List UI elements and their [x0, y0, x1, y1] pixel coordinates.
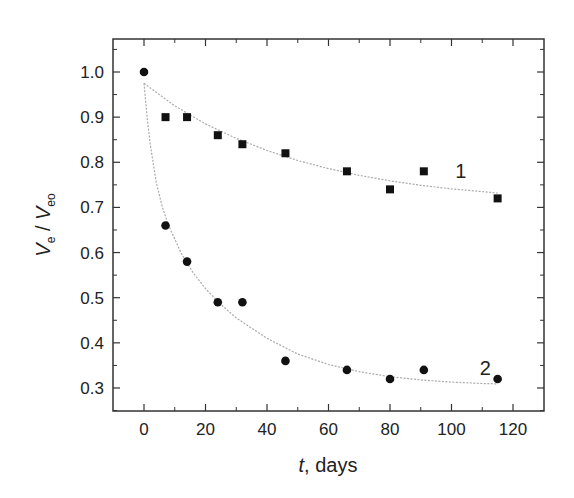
x-tick-label: 60 — [319, 420, 338, 439]
fit-curves — [144, 83, 498, 384]
square-marker — [343, 167, 351, 175]
svg-text:Ve / Veo: Ve / Veo — [32, 193, 58, 257]
circle-marker — [493, 375, 502, 384]
y-tick-label: 0.8 — [80, 153, 104, 172]
y-tick-label: 0.6 — [80, 244, 104, 263]
circle-marker — [214, 298, 223, 307]
square-marker — [281, 149, 289, 157]
data-markers — [140, 68, 502, 384]
y-tick-label: 0.5 — [80, 289, 104, 308]
x-tick-label: 80 — [381, 420, 400, 439]
circle-marker — [161, 221, 170, 230]
series-label-1: 1 — [455, 160, 466, 182]
y-tick-label: 0.4 — [80, 334, 104, 353]
y-tick-label: 1.0 — [80, 63, 104, 82]
square-marker — [214, 131, 222, 139]
fit-curve-1 — [144, 83, 498, 193]
square-marker — [183, 113, 191, 121]
square-marker — [238, 140, 246, 148]
x-tick-label: 100 — [437, 420, 465, 439]
square-marker — [386, 185, 394, 193]
x-tick-label: 40 — [258, 420, 277, 439]
circle-marker — [343, 366, 352, 375]
circle-marker — [238, 298, 247, 307]
circle-marker — [420, 366, 429, 375]
y-axis: 0.30.40.50.60.70.80.91.0 — [80, 49, 544, 410]
square-marker — [162, 113, 170, 121]
circle-marker — [183, 257, 192, 266]
circle-marker — [140, 68, 149, 77]
x-tick-label: 120 — [499, 420, 527, 439]
x-axis-title: t, days — [299, 454, 358, 476]
plot-frame — [113, 39, 544, 411]
square-marker — [494, 194, 502, 202]
x-tick-label: 0 — [139, 420, 148, 439]
circle-marker — [281, 357, 290, 366]
circle-marker — [386, 375, 395, 384]
y-tick-label: 0.7 — [80, 198, 104, 217]
y-tick-label: 0.3 — [80, 379, 104, 398]
y-tick-label: 0.9 — [80, 108, 104, 127]
series-labels: 12 — [455, 160, 491, 378]
x-tick-label: 20 — [196, 420, 215, 439]
x-axis: 020406080100120 — [139, 39, 527, 439]
y-axis-title: Ve / Veo — [32, 193, 58, 257]
series-label-2: 2 — [480, 357, 491, 379]
square-marker — [420, 167, 428, 175]
chart: 020406080100120 0.30.40.50.60.70.80.91.0… — [0, 0, 574, 498]
fit-curve-2 — [144, 83, 498, 384]
